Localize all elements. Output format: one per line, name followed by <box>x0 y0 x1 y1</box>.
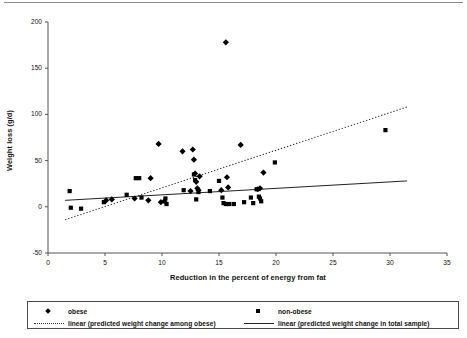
data-point-non-obese <box>69 206 73 210</box>
data-point-obese <box>225 184 231 190</box>
chart-figure: Weight loss (g/d) Reduction in the perce… <box>0 0 467 338</box>
data-point-non-obese <box>251 201 255 205</box>
x-tick-label: 15 <box>207 259 231 266</box>
legend-entry-non-obese: non-obese <box>244 305 312 317</box>
data-point-non-obese <box>242 200 246 204</box>
chart-legend: obese non-obese linear (predicted weight… <box>27 301 459 329</box>
y-tick-label: 0 <box>12 203 42 210</box>
data-point-non-obese <box>163 196 167 200</box>
x-tick-label: 25 <box>321 259 345 266</box>
solid-line-icon <box>244 318 274 328</box>
legend-label-obese: obese <box>68 308 87 315</box>
trendline <box>65 107 407 220</box>
y-tick-label: 100 <box>12 110 42 117</box>
x-axis-label: Reduction in the percent of energy from … <box>48 273 448 282</box>
x-tick-label: 20 <box>264 259 288 266</box>
y-tick-label: 150 <box>12 64 42 71</box>
trendline <box>65 181 407 200</box>
legend-label-obese-trendline: linear (predicted weight change among ob… <box>68 320 216 327</box>
data-point-non-obese <box>182 188 186 192</box>
data-point-non-obese <box>255 187 259 191</box>
x-tick-label: 0 <box>36 259 60 266</box>
x-tick-label: 5 <box>93 259 117 266</box>
data-point-obese <box>223 39 229 45</box>
legend-entry-obese: obese <box>34 305 87 317</box>
data-point-non-obese <box>139 195 143 199</box>
data-point-non-obese <box>125 193 129 197</box>
data-point-non-obese <box>137 176 141 180</box>
data-point-non-obese <box>273 160 277 164</box>
data-point-obese <box>145 197 151 203</box>
data-point-obese <box>224 174 230 180</box>
data-point-non-obese <box>249 195 253 199</box>
data-point-non-obese <box>232 202 236 206</box>
data-point-non-obese <box>217 179 221 183</box>
y-tick-label: -50 <box>12 249 42 256</box>
y-tick-label: 200 <box>12 18 42 25</box>
data-point-non-obese <box>192 172 196 176</box>
data-point-non-obese <box>196 190 200 194</box>
data-point-non-obese <box>164 202 168 206</box>
data-point-non-obese <box>194 197 198 201</box>
data-point-non-obese <box>193 178 197 182</box>
data-point-non-obese <box>220 195 224 199</box>
data-point-non-obese <box>68 189 72 193</box>
data-point-non-obese <box>227 202 231 206</box>
data-point-obese <box>155 141 161 147</box>
y-axis-label-wrap: Weight loss (g/d) <box>2 88 16 198</box>
y-axis-label: Weight loss (g/d) <box>5 86 14 196</box>
scatter-plot-canvas <box>0 0 467 300</box>
data-point-non-obese <box>383 128 387 132</box>
x-tick-label: 10 <box>150 259 174 266</box>
data-point-obese <box>218 187 224 193</box>
data-point-obese <box>179 148 185 154</box>
data-point-obese <box>238 142 244 148</box>
x-tick-label: 35 <box>435 259 459 266</box>
legend-label-non-obese: non-obese <box>278 308 312 315</box>
diamond-marker-icon <box>34 306 64 316</box>
y-tick-label: 50 <box>12 157 42 164</box>
data-point-obese <box>148 175 154 181</box>
legend-entry-total-trendline: linear (predicted weight change in total… <box>244 317 430 329</box>
dotted-line-icon <box>34 318 64 328</box>
square-marker-icon <box>244 306 274 316</box>
data-point-obese <box>191 157 197 163</box>
data-point-non-obese <box>102 200 106 204</box>
data-point-non-obese <box>208 189 212 193</box>
data-point-non-obese <box>79 207 83 211</box>
data-point-obese <box>260 170 266 176</box>
data-point-obese <box>190 146 196 152</box>
data-point-non-obese <box>259 199 263 203</box>
x-tick-label: 30 <box>378 259 402 266</box>
legend-label-total-trendline: linear (predicted weight change in total… <box>278 320 430 327</box>
legend-entry-obese-trendline: linear (predicted weight change among ob… <box>34 317 216 329</box>
